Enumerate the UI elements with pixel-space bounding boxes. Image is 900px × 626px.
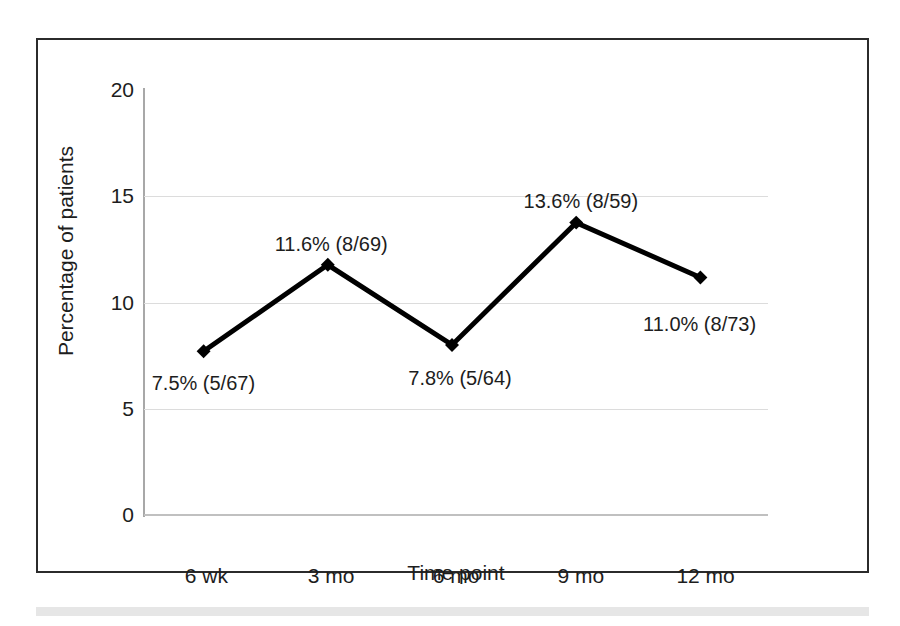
data-point-label: 11.0% (8/73): [643, 313, 756, 336]
data-point-label: 13.6% (8/59): [524, 190, 639, 213]
y-tick-label: 10: [111, 291, 134, 315]
data-point-label: 7.5% (5/67): [152, 372, 255, 395]
gridline: [144, 409, 768, 410]
y-tick-label: 15: [111, 184, 134, 208]
y-tick-label: 5: [122, 397, 134, 421]
y-tick-label: 0: [122, 503, 134, 527]
figure-frame: 05101520 Percentage of patients 6 wk3 mo…: [36, 38, 869, 573]
plot-area: [144, 90, 768, 515]
data-point-label: 7.8% (5/64): [408, 367, 511, 390]
gridline: [144, 196, 768, 197]
y-axis-title-label: Percentage of patients: [54, 81, 78, 421]
x-axis-title-label: Time point: [144, 561, 768, 585]
data-point-label: 11.6% (8/69): [275, 233, 388, 256]
figure-root: 05101520 Percentage of patients 6 wk3 mo…: [0, 0, 900, 626]
bottom-decoration-band: [36, 607, 869, 616]
gridline: [144, 303, 768, 304]
y-tick-labels: 05101520: [96, 40, 134, 573]
y-tick-label: 20: [111, 78, 134, 102]
